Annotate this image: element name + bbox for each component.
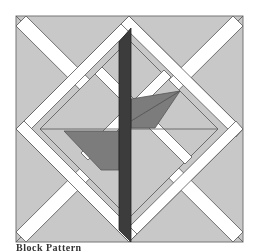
stem <box>119 28 131 242</box>
quilt-block-diagram <box>0 0 254 251</box>
figure-caption: Block Pattern <box>16 243 82 251</box>
